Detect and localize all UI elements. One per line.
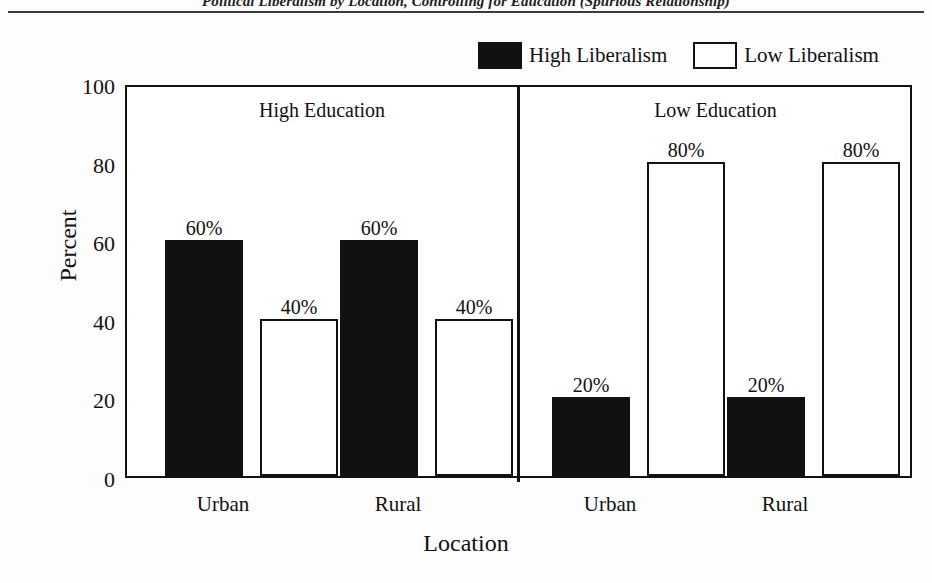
bar-value-high-education-urban-high-liberalism: 60% [165,217,243,240]
y-tick-label-0: 0 [60,467,115,493]
x-tick-label-urban-low-education: Urban [550,492,670,517]
panel-caption-low-education: Low Education [517,99,914,122]
bar-high-education-rural-low-liberalism[interactable] [435,319,513,476]
legend-label-high-liberalism: High Liberalism [529,45,667,66]
legend-entry-high-liberalism: High Liberalism [478,42,693,69]
x-tick-label-rural-low-education: Rural [725,492,845,517]
chart-legend: High Liberalism Low Liberalism [478,42,905,69]
x-axis-label: Location [0,530,932,557]
legend-label-low-liberalism: Low Liberalism [744,45,879,66]
bar-value-high-education-rural-low-liberalism: 40% [435,296,513,319]
open-square-icon [693,42,737,69]
bar-high-education-urban-low-liberalism[interactable] [260,319,338,476]
filled-square-icon [478,42,522,69]
figure-title: Political Liberalism by Location, Contro… [0,0,932,10]
bar-low-education-urban-high-liberalism[interactable] [552,397,630,476]
y-tick-label-20: 20 [60,388,115,414]
y-tick-label-100: 100 [48,74,115,100]
bar-value-low-education-urban-high-liberalism: 20% [552,374,630,397]
bar-low-education-rural-high-liberalism[interactable] [727,397,805,476]
bar-value-low-education-urban-low-liberalism: 80% [647,139,725,162]
bar-value-low-education-rural-high-liberalism: 20% [727,374,805,397]
bar-value-high-education-urban-low-liberalism: 40% [260,296,338,319]
y-tick-label-60: 60 [60,231,115,257]
y-tick-label-80: 80 [60,153,115,179]
x-tick-label-urban-high-education: Urban [163,492,283,517]
panel-divider [517,85,520,482]
bar-low-education-urban-low-liberalism[interactable] [647,162,725,476]
bar-value-low-education-rural-low-liberalism: 80% [822,139,900,162]
x-tick-label-rural-high-education: Rural [338,492,458,517]
plot-area: High Education Low Education 60% 40% 60%… [125,85,912,478]
bar-high-education-rural-high-liberalism[interactable] [340,240,418,476]
panel-caption-high-education: High Education [127,99,517,122]
title-divider-rule [8,11,924,13]
figure-container: Political Liberalism by Location, Contro… [0,0,932,583]
bar-value-high-education-rural-high-liberalism: 60% [340,217,418,240]
y-tick-label-40: 40 [60,310,115,336]
bar-low-education-rural-low-liberalism[interactable] [822,162,900,476]
legend-entry-low-liberalism: Low Liberalism [693,42,905,69]
bar-high-education-urban-high-liberalism[interactable] [165,240,243,476]
